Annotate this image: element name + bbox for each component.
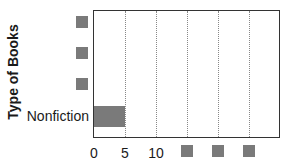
- gridline: [249, 11, 250, 137]
- plot-area: [93, 10, 280, 138]
- missing-tick-placeholder: [212, 145, 224, 157]
- missing-tick-placeholder: [181, 145, 193, 157]
- y-axis-label: Type of Books: [3, 17, 23, 127]
- x-tick-0: 0: [90, 145, 98, 161]
- missing-category-placeholder: [76, 16, 88, 28]
- x-tick-10: 10: [148, 145, 164, 161]
- gridline: [218, 11, 219, 137]
- gridline: [187, 11, 188, 137]
- x-tick-5: 5: [121, 145, 129, 161]
- category-label-nonfiction: Nonfiction: [27, 108, 89, 124]
- bar-nonfiction: [94, 106, 125, 127]
- missing-category-placeholder: [76, 47, 88, 59]
- missing-category-placeholder: [76, 78, 88, 90]
- missing-tick-placeholder: [243, 145, 255, 157]
- gridline: [125, 11, 126, 137]
- gridline: [156, 11, 157, 137]
